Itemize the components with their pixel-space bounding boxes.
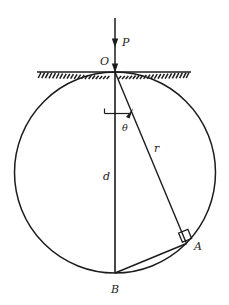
chord-segment-ba [115,244,187,274]
label-O: O [100,55,109,68]
label-B: B [110,283,119,296]
figure-canvas: P O θ r d A B [0,0,229,305]
incident-ray-P [112,18,118,73]
surface-hatching-icon [38,73,189,80]
chord-segment-r [115,72,187,244]
hatched-surface [37,72,191,79]
geometry-figure: P O θ r d A B [0,0,229,305]
label-P: P [121,36,130,49]
ray-P-arrowhead-at-O-icon [112,64,118,73]
ray-P-arrowhead-icon [112,39,118,48]
angle-theta-marker [105,109,134,119]
label-A: A [193,240,202,253]
label-d: d [103,170,110,183]
label-theta: θ [122,122,128,133]
label-r: r [154,142,160,155]
